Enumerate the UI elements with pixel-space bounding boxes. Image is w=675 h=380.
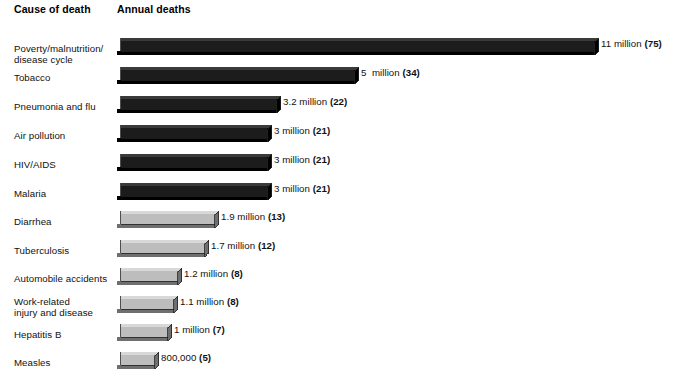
value-amount: 5 million bbox=[361, 67, 402, 78]
value-index: (21) bbox=[313, 125, 330, 136]
deaths-bar-chart: Cause of death Annual deaths Poverty/mal… bbox=[0, 0, 675, 380]
value-index: (21) bbox=[313, 154, 330, 165]
value-label: 1.7 million (12) bbox=[211, 240, 275, 251]
bar bbox=[117, 67, 361, 86]
category-label: Air pollution bbox=[14, 130, 65, 141]
value-amount: 3.2 million bbox=[283, 96, 330, 107]
bar bbox=[117, 324, 174, 343]
value-amount: 1.7 million bbox=[211, 240, 258, 251]
value-index: (13) bbox=[268, 211, 285, 222]
bar bbox=[117, 96, 283, 115]
value-index: (75) bbox=[644, 38, 661, 49]
value-amount: 1.9 million bbox=[221, 211, 268, 222]
value-label: 5 million (34) bbox=[361, 67, 420, 78]
category-label: Diarrhea bbox=[14, 216, 52, 227]
value-amount: 3 million bbox=[274, 183, 313, 194]
category-label: Pneumonia and flu bbox=[14, 101, 96, 112]
value-label: 1.1 million (8) bbox=[180, 296, 239, 307]
value-label: 1.2 million (8) bbox=[184, 268, 243, 279]
value-amount: 3 million bbox=[274, 125, 313, 136]
value-amount: 800,000 bbox=[161, 352, 199, 363]
value-label: 1 million (7) bbox=[174, 324, 225, 335]
category-label: Hepatitis B bbox=[14, 329, 61, 340]
value-label: 11 million (75) bbox=[601, 38, 662, 49]
value-label: 3 million (21) bbox=[274, 154, 330, 165]
value-label: 3 million (21) bbox=[274, 125, 330, 136]
value-index: (21) bbox=[313, 183, 330, 194]
value-amount: 1.2 million bbox=[184, 268, 231, 279]
value-index: (5) bbox=[199, 352, 211, 363]
bar bbox=[117, 268, 184, 287]
category-label: Work-related injury and disease bbox=[14, 296, 93, 319]
value-index: (12) bbox=[258, 240, 275, 251]
value-amount: 1 million bbox=[174, 324, 213, 335]
bar bbox=[117, 125, 274, 144]
value-index: (8) bbox=[231, 268, 243, 279]
bar bbox=[117, 183, 274, 202]
value-label: 3 million (21) bbox=[274, 183, 330, 194]
category-label: HIV/AIDS bbox=[14, 159, 56, 170]
bar bbox=[117, 296, 180, 315]
value-index: (34) bbox=[402, 67, 419, 78]
category-label: Tobacco bbox=[14, 72, 50, 83]
category-label: Automobile accidents bbox=[14, 273, 107, 284]
category-label: Tuberculosis bbox=[14, 245, 69, 256]
value-label: 800,000 (5) bbox=[161, 352, 211, 363]
value-index: (8) bbox=[227, 296, 239, 307]
column-header-annual-deaths: Annual deaths bbox=[117, 3, 191, 15]
value-amount: 11 million bbox=[601, 38, 644, 49]
value-label: 1.9 million (13) bbox=[221, 211, 285, 222]
value-label: 3.2 million (22) bbox=[283, 96, 347, 107]
value-index: (7) bbox=[213, 324, 225, 335]
bar bbox=[117, 38, 601, 57]
value-amount: 1.1 million bbox=[180, 296, 227, 307]
category-label: Malaria bbox=[14, 188, 46, 199]
bar bbox=[117, 211, 221, 230]
bar bbox=[117, 352, 161, 371]
bar bbox=[117, 154, 274, 173]
value-index: (22) bbox=[330, 96, 347, 107]
bar bbox=[117, 240, 211, 259]
category-label: Measles bbox=[14, 357, 50, 368]
category-label: Poverty/malnutrition/ disease cycle bbox=[14, 43, 103, 66]
value-amount: 3 million bbox=[274, 154, 313, 165]
column-header-cause-of-death: Cause of death bbox=[14, 3, 91, 15]
